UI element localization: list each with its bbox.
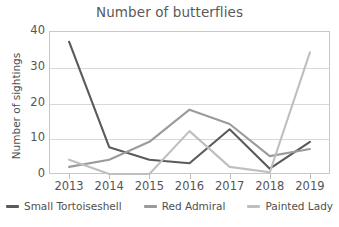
legend-item-small-tortoiseshell[interactable]: Small Tortoiseshell (6, 200, 122, 212)
series-lines (49, 31, 330, 174)
legend-item-red-admiral[interactable]: Red Admiral (144, 200, 226, 212)
legend-item-painted-lady[interactable]: Painted Lady (247, 200, 333, 212)
y-tick-label-40: 40 (5, 25, 45, 37)
legend-swatch-icon (247, 205, 260, 208)
y-tick-label-30: 30 (5, 61, 45, 73)
series-line-small-tortoiseshell (69, 42, 310, 169)
x-tick-label-2013: 2013 (46, 179, 92, 193)
chart-legend: Small TortoiseshellRed AdmiralPainted La… (0, 200, 339, 212)
y-tick-label-10: 10 (5, 132, 45, 144)
legend-swatch-icon (6, 205, 19, 208)
x-tick-label-2014: 2014 (86, 179, 132, 193)
x-tick-label-2019: 2019 (287, 179, 333, 193)
x-tick-label-2018: 2018 (247, 179, 293, 193)
y-tick-label-20: 20 (5, 97, 45, 109)
legend-label: Small Tortoiseshell (24, 200, 122, 212)
legend-label: Painted Lady (265, 200, 333, 212)
chart-title: Number of butterflies (0, 4, 339, 20)
x-tick-label-2016: 2016 (167, 179, 213, 193)
y-tick-label-0: 0 (5, 168, 45, 180)
legend-swatch-icon (144, 205, 157, 208)
butterfly-line-chart: Number of butterflies Number of sighting… (0, 0, 339, 227)
legend-label: Red Admiral (162, 200, 226, 212)
x-tick-label-2015: 2015 (126, 179, 172, 193)
x-tick-label-2017: 2017 (207, 179, 253, 193)
